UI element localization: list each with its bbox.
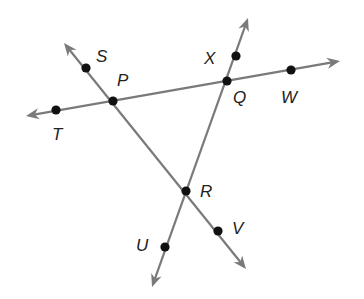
label-Q: Q [233,88,246,107]
label-R: R [200,182,212,201]
point-S [81,63,90,72]
point-R [181,186,190,195]
label-P: P [117,71,129,90]
label-V: V [232,219,245,238]
point-T [51,105,60,114]
label-T: T [52,125,64,144]
label-S: S [96,47,108,66]
geometry-diagram: S P T X Q W R U V [0,0,364,299]
label-W: W [281,88,299,107]
lines-group [34,26,332,280]
point-V [213,226,222,235]
point-U [160,242,169,251]
point-P [108,96,117,105]
line-XU [155,26,246,280]
label-U: U [136,236,149,255]
points-group [51,51,295,251]
point-W [286,65,295,74]
point-X [231,51,240,60]
point-Q [222,76,231,85]
label-X: X [203,49,216,68]
arrows-group [26,18,340,287]
